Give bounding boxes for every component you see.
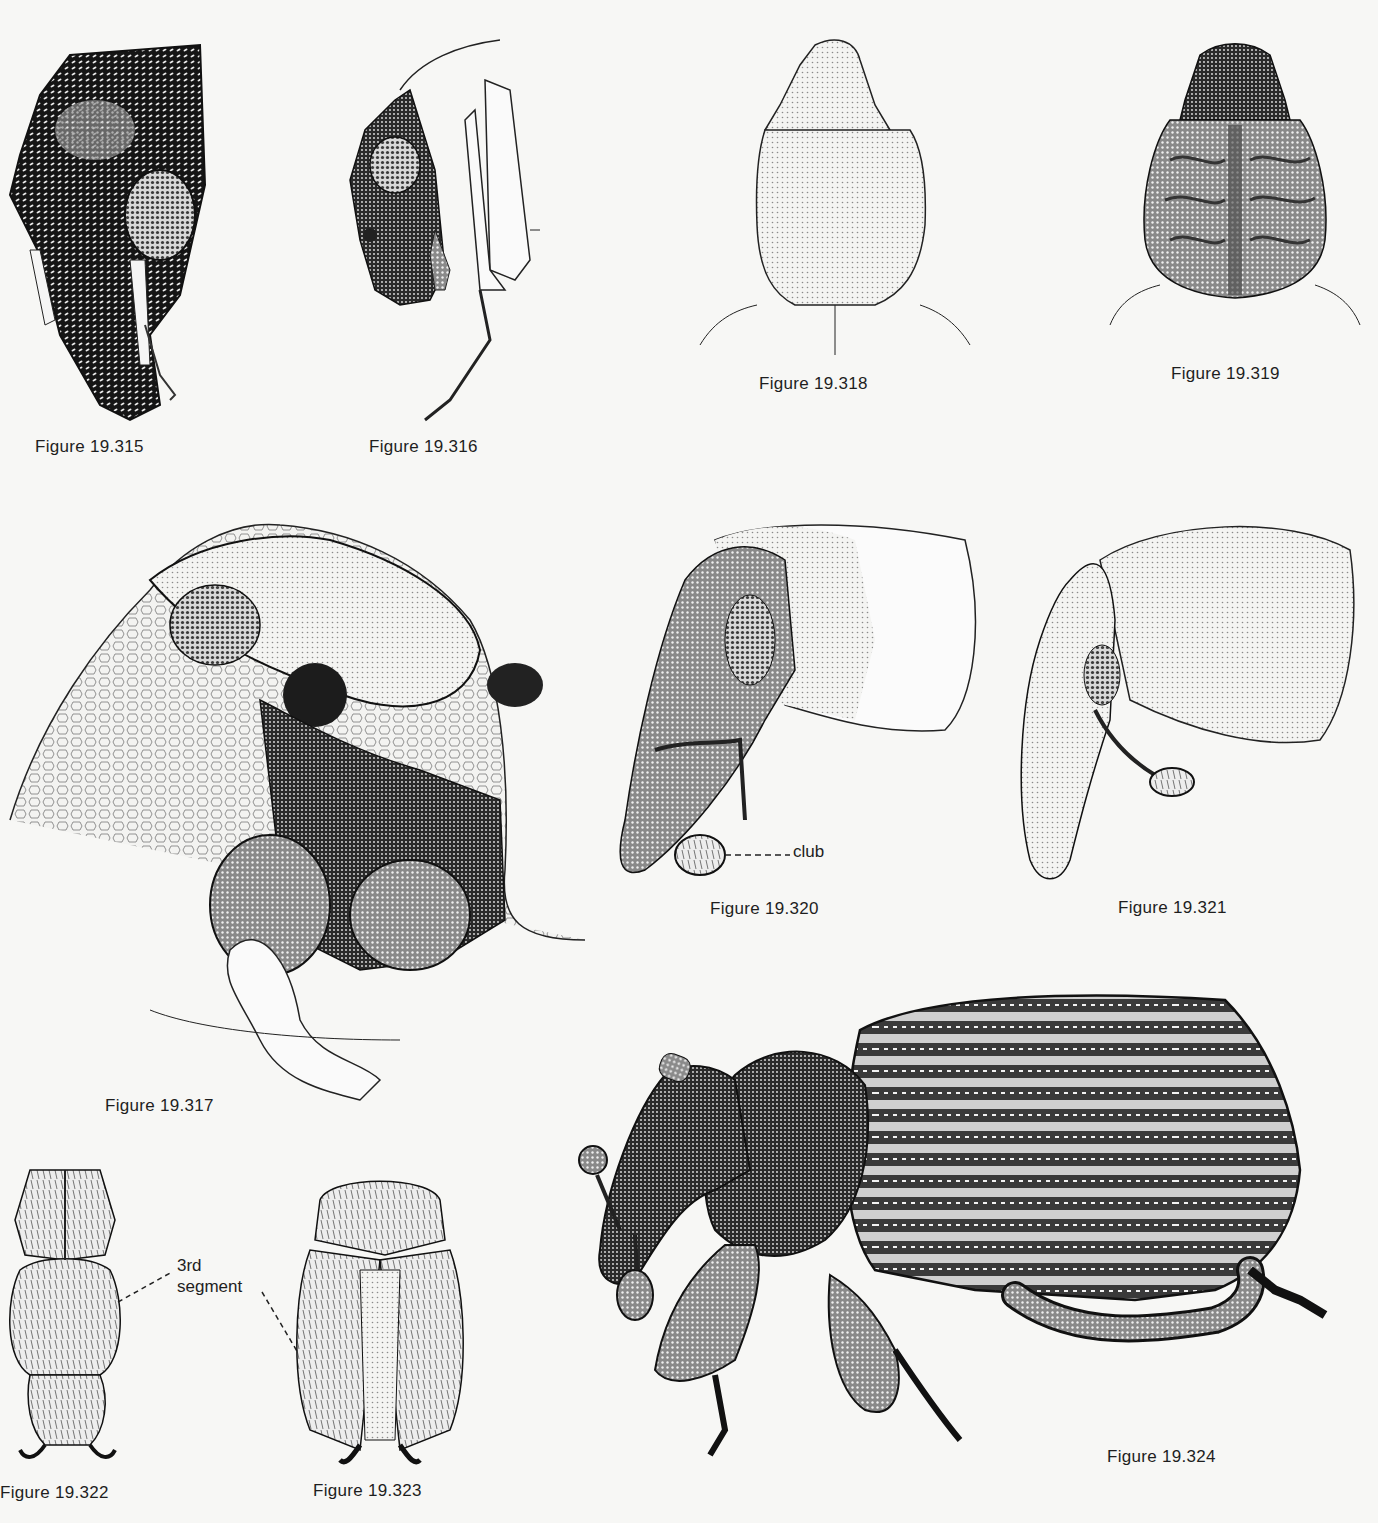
caption-figure-19-323: Figure 19.323 [313, 1481, 422, 1501]
figure-19-324 [575, 990, 1375, 1470]
caption-figure-19-324: Figure 19.324 [1107, 1447, 1216, 1467]
figure-19-323 [290, 1160, 470, 1470]
weevil-tarsus-hairy-illustration [290, 1160, 470, 1470]
weevil-full-body-illustration [575, 990, 1375, 1470]
